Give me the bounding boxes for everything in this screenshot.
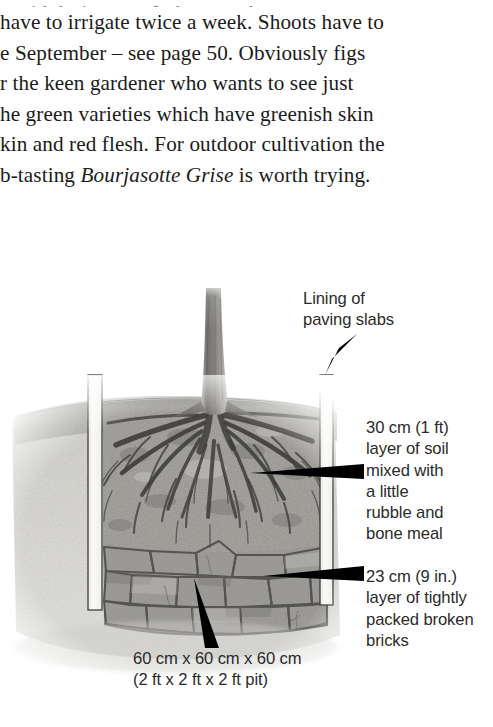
callout-lining-of-paving-slabs: Lining of paving slabs [303, 288, 394, 331]
broken-brick-layer [103, 541, 327, 635]
body-text-line-6: b-tasting Bourjasotte Grise is worth try… [0, 160, 493, 191]
body-text-cut-line: avoid drying out. In hot weather you may [0, 0, 493, 7]
body-text-line-1: have to irrigate twice a week. Shoots ha… [0, 7, 493, 38]
body-text-line-3: r the keen gardener who wants to see jus… [0, 68, 493, 99]
callout-brick-layer: 23 cm (9 in.) layer of tightly packed br… [366, 566, 474, 651]
body-text-line-2: e September – see page 50. Obviously fig… [0, 38, 493, 69]
paving-slab-left [88, 375, 102, 610]
callout-soil-layer: 30 cm (1 ft) layer of soil mixed with a … [366, 417, 449, 545]
callout-pit-dimensions: 60 cm x 60 cm x 60 cm (2 ft x 2 ft x 2 f… [133, 648, 302, 691]
body-text-line-6-prefix: b-tasting [0, 163, 80, 187]
body-text-line-6-suffix: is worth trying. [233, 163, 370, 187]
arrow-lining [325, 334, 357, 375]
body-text-line-5: kin and red flesh. For outdoor cultivati… [0, 129, 493, 160]
cultivar-name-italic: Bourjasotte Grise [80, 163, 233, 187]
body-text-block: avoid drying out. In hot weather you may… [0, 0, 493, 191]
body-text-line-4: he green varieties which have greenish s… [0, 99, 493, 130]
page-canvas: avoid drying out. In hot weather you may… [0, 0, 493, 727]
